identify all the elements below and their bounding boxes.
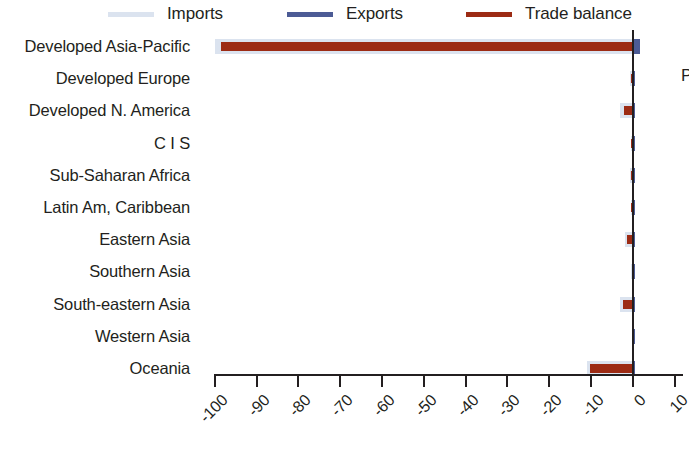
axis-tick [297, 374, 299, 387]
bar-trade-balance [590, 364, 633, 373]
axis-tick [674, 374, 676, 387]
axis-tick [381, 374, 383, 387]
axis-tick [465, 374, 467, 387]
bar-trade-balance [221, 42, 633, 51]
legend-item-exports: Exports [287, 4, 403, 26]
axis-tick [590, 374, 592, 387]
axis-tick [256, 374, 258, 387]
zero-line [632, 30, 634, 374]
plot-area: Developed Asia-PacificDeveloped EuropeDe… [0, 30, 689, 390]
trade-balance-chart: Imports Exports Trade balance Developed … [0, 0, 689, 460]
legend-label-trade-balance: Trade balance [525, 4, 632, 24]
legend-swatch-exports [287, 12, 333, 17]
legend-item-trade-balance: Trade balance [466, 4, 632, 26]
legend-swatch-imports [108, 12, 154, 17]
axis-tick [339, 374, 341, 387]
axis-tick [632, 374, 634, 387]
axis-tick [423, 374, 425, 387]
edge-annotation: P [681, 66, 689, 86]
legend-swatch-trade-balance [466, 12, 512, 17]
value-axis: -100-90-80-70-60-50-40-30-20-10010 [0, 374, 689, 460]
axis-line [215, 374, 683, 376]
bars-area [0, 30, 689, 385]
legend-label-imports: Imports [167, 4, 223, 24]
axis-tick [214, 374, 216, 387]
axis-tick [548, 374, 550, 387]
legend-item-imports: Imports [108, 4, 223, 26]
legend-label-exports: Exports [346, 4, 403, 24]
chart-legend: Imports Exports Trade balance [0, 0, 689, 30]
axis-tick [506, 374, 508, 387]
bar-exports [633, 39, 641, 54]
